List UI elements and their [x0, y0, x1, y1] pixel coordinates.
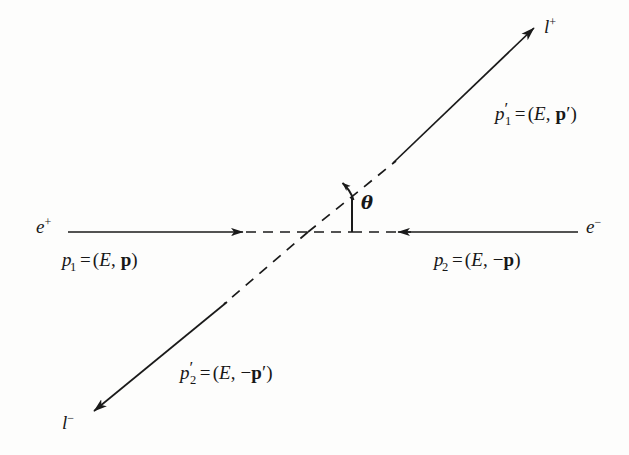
particle-label-lepton-minus: l− [62, 412, 74, 432]
momentum-label-p2-prime: p′2=(E, −p′) [180, 363, 273, 386]
positron-charge: + [44, 215, 51, 229]
p2prime-equals: = [198, 362, 213, 383]
angle-arc-arrow [343, 183, 354, 200]
lepton-plus-charge: + [549, 15, 556, 29]
p2prime-subscript: 2 [190, 373, 196, 387]
p2prime-close-paren: ) [266, 362, 272, 383]
electron-charge: − [594, 215, 601, 229]
p1-energy: E [99, 249, 111, 270]
p1-close-paren: ) [131, 249, 137, 270]
p1-vector: p [121, 249, 132, 270]
p1prime-vector: p [556, 103, 567, 124]
p2prime-symbol: p [180, 362, 190, 383]
p1prime-close-paren: ) [570, 103, 576, 124]
particle-label-lepton-plus: l+ [544, 16, 556, 36]
particle-label-positron: e+ [36, 216, 51, 236]
feynman-scattering-diagram: e+ e− l+ l− p1=(E, p) p2=(E, −p) p′1=(E,… [0, 0, 629, 455]
p2-equals: = [450, 249, 465, 270]
p2prime-energy: E [219, 362, 231, 383]
p2prime-sign: − [241, 362, 252, 383]
p2-close-paren: ) [514, 249, 520, 270]
p1prime-energy: E [534, 103, 546, 124]
lepton-plus-line-solid [393, 28, 534, 163]
angle-label-theta: θ [361, 194, 373, 212]
p2prime-vector: p [251, 362, 262, 383]
momentum-label-p1: p1=(E, p) [62, 250, 138, 273]
lepton-minus-charge: − [67, 411, 74, 425]
diagram-canvas [0, 0, 629, 455]
lepton-minus-line-solid [94, 302, 227, 411]
momentum-label-p1-prime: p′1=(E, p′) [495, 104, 577, 127]
lepton-minus-line-dashed [224, 232, 308, 304]
p2-subscript: 2 [442, 260, 448, 274]
particle-label-electron: e− [586, 216, 601, 236]
p2-energy: E [471, 249, 483, 270]
p1-subscript: 1 [70, 260, 76, 274]
p1prime-equals: = [513, 103, 528, 124]
p1prime-symbol: p [495, 103, 505, 124]
p1-equals: = [78, 249, 93, 270]
p1prime-subscript: 1 [505, 114, 511, 128]
p2-vector: p [504, 249, 515, 270]
momentum-label-p2: p2=(E, −p) [434, 250, 521, 273]
p2-sign: − [493, 249, 504, 270]
